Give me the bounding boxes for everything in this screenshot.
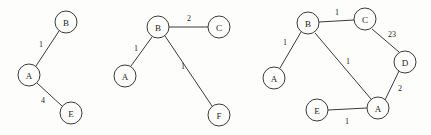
edge-b-f xyxy=(165,36,212,106)
edge-weight-label: 1 xyxy=(345,117,349,126)
node-label: B xyxy=(63,18,69,28)
graph-2-edges xyxy=(131,27,212,106)
node-label: E xyxy=(68,109,74,119)
node-label: A xyxy=(271,74,278,84)
node-label: E xyxy=(314,106,320,116)
node-label: F xyxy=(216,111,221,121)
graph-1-nodes: BAE xyxy=(18,11,82,124)
graph-3-nodes: BCADAE xyxy=(263,8,416,121)
graph-canvas: BAEBCAFBCADAE 142111123121 xyxy=(0,0,431,135)
edge-weight-label: 2 xyxy=(398,84,402,93)
node-label: A xyxy=(122,72,129,82)
node-label: C xyxy=(362,15,368,25)
edge-weight-label: 23 xyxy=(388,30,396,39)
graph-3-edges xyxy=(280,20,399,110)
edge-weight-label: 1 xyxy=(134,44,138,53)
graph-2-nodes: BCAF xyxy=(114,16,230,126)
edge-a-b xyxy=(36,31,59,66)
edge-b-c xyxy=(319,20,354,22)
edge-d-a-bottom xyxy=(385,71,399,100)
node-label: B xyxy=(305,19,311,29)
edge-weight-label: 1 xyxy=(346,57,350,66)
edge-weight-label: 4 xyxy=(41,96,45,105)
node-label: D xyxy=(402,58,409,68)
edge-weight-label: 1 xyxy=(39,40,43,49)
edge-e-a-bottom xyxy=(328,108,367,110)
node-label: A xyxy=(375,104,382,114)
edge-weight-label: 1 xyxy=(181,62,185,71)
node-label: C xyxy=(216,23,222,33)
edge-weight-label: 1 xyxy=(335,8,339,17)
edge-b-a-bottom xyxy=(315,33,371,99)
node-label: A xyxy=(26,71,33,81)
node-label: B xyxy=(155,23,161,33)
graph-figure: BAEBCAFBCADAE 142111123121 xyxy=(0,0,431,135)
edge-weight-label: 1 xyxy=(283,38,287,47)
edge-weight-label: 2 xyxy=(187,14,191,23)
